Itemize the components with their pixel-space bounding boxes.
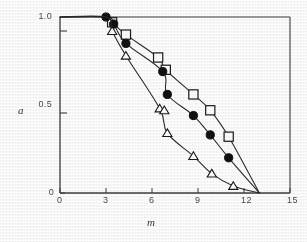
data-point-filled-circle-6 xyxy=(206,131,214,139)
x-tick-label-9: 9 xyxy=(195,195,200,205)
data-point-filled-circle-4 xyxy=(163,90,171,98)
data-point-open-square-4 xyxy=(189,90,198,99)
series-filled-circle-series xyxy=(60,13,259,193)
x-tick-label-0: 0 xyxy=(57,195,62,205)
data-point-open-square-6 xyxy=(224,132,233,141)
data-point-open-triangle-4 xyxy=(163,129,172,137)
chart-canvas xyxy=(0,0,307,242)
data-point-filled-circle-7 xyxy=(225,154,233,162)
x-tick-label-6: 6 xyxy=(149,195,154,205)
data-point-filled-circle-2 xyxy=(122,39,130,47)
x-tick-label-15: 15 xyxy=(287,195,298,205)
x-tick-label-12: 12 xyxy=(241,195,252,205)
data-point-filled-circle-5 xyxy=(189,111,197,119)
y-tick-label-0: 0 xyxy=(49,187,54,197)
series-open-triangle-series xyxy=(60,16,259,193)
data-series-layer xyxy=(60,13,259,193)
data-point-open-square-1 xyxy=(121,30,130,39)
x-tick-label-3: 3 xyxy=(103,195,108,205)
figure-container: a m 0369121500.51.0 xyxy=(0,0,307,242)
data-point-open-triangle-7 xyxy=(229,182,238,190)
x-axis-title: m xyxy=(147,216,155,228)
y-tick-label-0-5: 0.5 xyxy=(38,99,52,109)
plot-frame xyxy=(60,17,290,193)
data-point-open-square-5 xyxy=(206,106,215,115)
y-axis-ticks xyxy=(60,31,67,193)
data-point-open-square-2 xyxy=(154,53,163,62)
y-axis-title: a xyxy=(18,104,24,116)
data-point-filled-circle-3 xyxy=(159,67,167,75)
y-tick-label-1: 1.0 xyxy=(38,11,52,21)
data-point-open-triangle-1 xyxy=(121,51,130,59)
